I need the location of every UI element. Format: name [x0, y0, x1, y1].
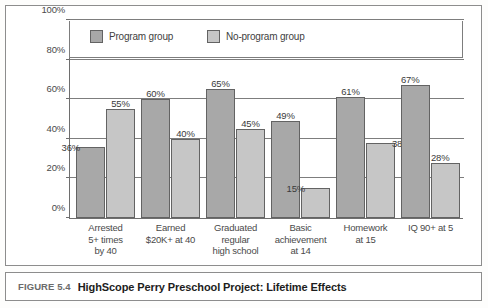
- legend-item-program-group[interactable]: Program group: [90, 30, 173, 43]
- figure-frame: 0% 20% 40% 60% 80% 100%: [5, 5, 482, 266]
- bar-program-graduated[interactable]: 65%: [206, 89, 235, 218]
- bar-program-basic-achievement[interactable]: 49%: [271, 121, 300, 218]
- legend-swatch-icon-program: [90, 30, 103, 43]
- bar-value-program-iq: 67%: [401, 74, 419, 85]
- figure-caption-title: HighScope Perry Preschool Project: Lifet…: [78, 281, 347, 293]
- figure-caption-bar: FIGURE 5.4 HighScope Perry Preschool Pro…: [5, 272, 482, 301]
- bar-value-program-basic-achievement: 49%: [276, 110, 294, 121]
- bar-noprogram-iq[interactable]: 28%: [431, 163, 460, 218]
- bar-noprogram-basic-achievement[interactable]: 15%: [301, 188, 330, 218]
- bar-chart: 0% 20% 40% 60% 80% 100%: [6, 6, 483, 267]
- bar-noprogram-homework[interactable]: 38%: [366, 143, 395, 218]
- bar-value-noprogram-basic-achievement: 15%: [287, 183, 305, 194]
- bar-value-program-homework: 61%: [341, 86, 359, 97]
- y-tick-label-60: 60%: [47, 83, 65, 94]
- figure-number-label: FIGURE 5.4: [18, 281, 71, 292]
- y-tick-mark-20: [66, 177, 70, 178]
- bar-value-noprogram-graduated: 45%: [241, 118, 259, 129]
- bar-value-program-arrested: 36%: [62, 142, 80, 153]
- chart-legend: Program group No-program group: [69, 21, 463, 58]
- bar-value-noprogram-iq: 28%: [431, 152, 449, 163]
- bar-value-program-earned: 60%: [146, 88, 164, 99]
- y-tick-mark-80: [66, 59, 70, 60]
- bar-program-earned[interactable]: 60%: [141, 99, 170, 218]
- legend-label-noprogram: No-program group: [226, 31, 305, 42]
- y-tick-mark-60: [66, 98, 70, 99]
- legend-swatch-icon-noprogram: [207, 30, 220, 43]
- y-tick-label-80: 80%: [47, 43, 65, 54]
- y-tick-label-20: 20%: [47, 162, 65, 173]
- bar-value-noprogram-earned: 40%: [176, 128, 194, 139]
- bar-program-arrested[interactable]: 36%: [76, 147, 105, 218]
- figure-page: 0% 20% 40% 60% 80% 100%: [0, 0, 488, 308]
- y-tick-mark-40: [66, 138, 70, 139]
- bar-noprogram-graduated[interactable]: 45%: [236, 129, 265, 218]
- bar-program-iq[interactable]: 67%: [401, 85, 430, 218]
- y-tick-label-100: 100%: [42, 4, 66, 15]
- x-label-iq: IQ 90+ at 5: [391, 222, 470, 234]
- y-tick-mark-100: [66, 19, 70, 20]
- bar-noprogram-arrested[interactable]: 55%: [106, 109, 135, 218]
- legend-label-program: Program group: [109, 31, 173, 42]
- y-tick-label-0: 0%: [52, 202, 65, 213]
- y-tick-label-40: 40%: [47, 122, 65, 133]
- bar-noprogram-earned[interactable]: 40%: [171, 139, 200, 218]
- bar-value-noprogram-arrested: 55%: [111, 98, 129, 109]
- legend-item-no-program-group[interactable]: No-program group: [207, 30, 305, 43]
- bar-value-program-graduated: 65%: [211, 78, 229, 89]
- bar-program-homework[interactable]: 61%: [336, 97, 365, 218]
- y-tick-mark-0: [66, 217, 70, 218]
